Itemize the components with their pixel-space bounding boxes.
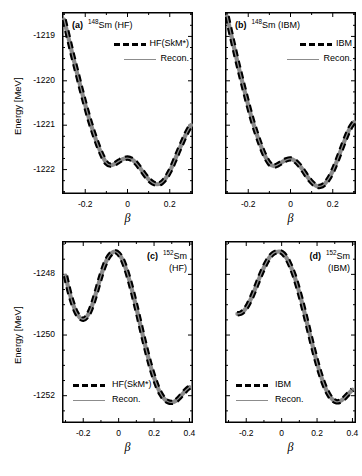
legend-swatch-solid <box>73 400 105 401</box>
x-axis-label: β <box>271 211 311 226</box>
legend-swatch-dashed <box>300 43 332 46</box>
x-tick-label: 0 <box>108 199 148 209</box>
x-axis-label: β <box>108 440 148 455</box>
x-tick-label: -0.2 <box>65 199 105 209</box>
legend-label-d-1: Recon. <box>275 394 304 404</box>
legend-label-c-0: HF(SkM*) <box>112 379 152 389</box>
x-tick-label: 0.2 <box>134 428 174 438</box>
x-tick-label: 0.4 <box>169 428 209 438</box>
y-axis-label: Energy [MeV] <box>12 77 23 135</box>
y-tick-label: -1250 <box>33 329 55 339</box>
y-tick-label: -1221 <box>33 119 55 129</box>
x-tick-label: 0 <box>262 428 302 438</box>
panel-title-a: (a) 148Sm (HF) <box>72 18 133 30</box>
x-tick-label: 0 <box>271 199 311 209</box>
y-tick-label: -1252 <box>33 390 55 400</box>
legend-swatch-solid <box>124 59 156 60</box>
legend-label-a-1: Recon. <box>160 53 189 63</box>
legend-label-b-0: IBM <box>336 38 352 48</box>
panel-title-d: (d) 152Sm(IBM) <box>309 247 350 274</box>
x-tick-label: -0.2 <box>226 428 266 438</box>
y-tick-label: -1222 <box>33 164 55 174</box>
legend-label-b-1: Recon. <box>323 53 352 63</box>
x-tick-label: 0.4 <box>332 428 362 438</box>
panel-title-c: (c) 152Sm(HF) <box>147 247 187 274</box>
legend-label-c-1: Recon. <box>112 394 141 404</box>
x-tick-label: -0.2 <box>63 428 103 438</box>
x-axis-label: β <box>271 440 311 455</box>
y-tick-label: -1248 <box>33 268 55 278</box>
legend-swatch-solid <box>236 400 268 401</box>
x-tick-label: -0.2 <box>228 199 268 209</box>
y-tick-label: -1219 <box>33 30 55 40</box>
y-tick-label: -1220 <box>33 75 55 85</box>
x-tick-label: 0 <box>99 428 139 438</box>
legend-label-a-0: HF(SkM*) <box>150 38 190 48</box>
x-tick-label: 0.2 <box>150 199 190 209</box>
legend-swatch-solid <box>287 59 319 60</box>
series-model-d <box>237 251 352 401</box>
panel-title-b: (b) 148Sm (IBM) <box>235 18 300 30</box>
y-axis-label: Energy [MeV] <box>12 306 23 364</box>
legend-swatch-dashed <box>236 384 268 387</box>
x-axis-label: β <box>108 211 148 226</box>
figure-root: -1219-1220-1221-1222-0.200.2(a) 148Sm (H… <box>0 0 362 476</box>
x-tick-label: 0.2 <box>297 428 337 438</box>
legend-swatch-dashed <box>73 384 105 387</box>
legend-label-d-0: IBM <box>275 379 291 389</box>
legend-swatch-dashed <box>114 43 146 46</box>
x-tick-label: 0.2 <box>313 199 353 209</box>
